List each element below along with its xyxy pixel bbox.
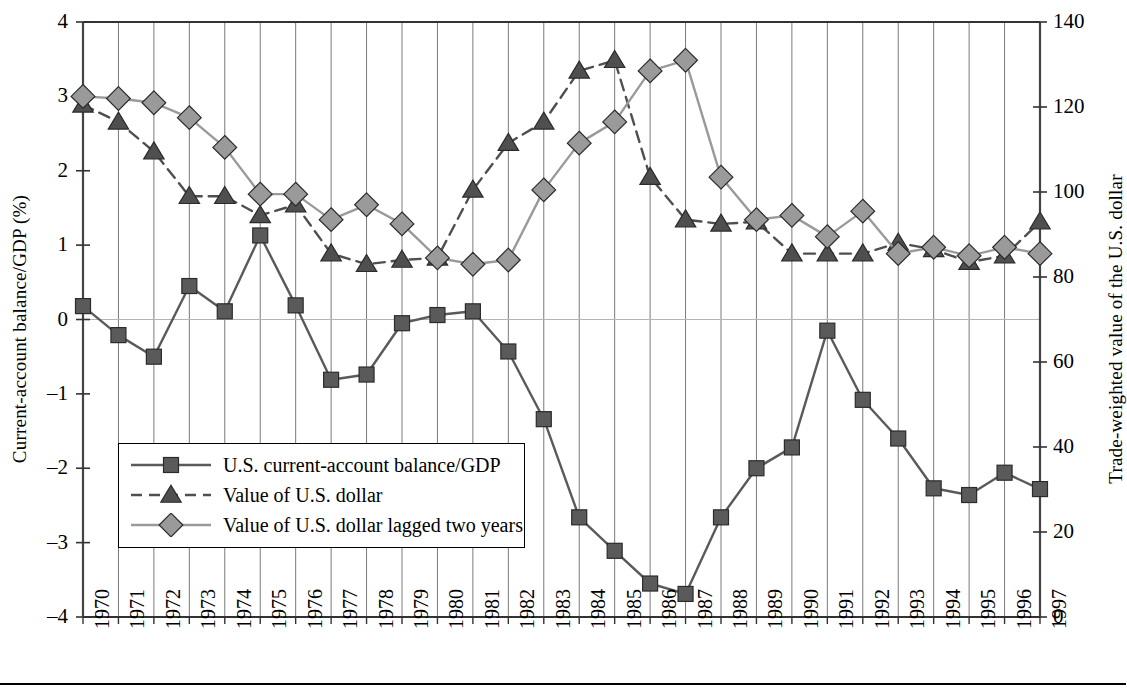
x-tick-label: 1982 [516,589,539,629]
y-tick-label-left: 1 [20,234,68,255]
data-point [853,244,873,261]
legend-marker-square-icon [129,453,213,477]
data-point [142,91,166,115]
x-tick-label: 1988 [729,589,752,629]
data-point [395,316,410,331]
y-tick-label-right: 40 [1053,436,1113,457]
x-tick-label: 1975 [268,589,291,629]
data-point [284,182,308,206]
y-tick-label-right: 20 [1053,521,1113,542]
data-point [780,204,804,228]
x-tick-label: 1983 [552,589,575,629]
data-point [108,112,128,129]
y-tick-label-right: 140 [1053,11,1113,32]
data-point [572,510,587,525]
x-tick-label: 1997 [1048,589,1071,629]
y-tick-label-left: 0 [20,309,68,330]
data-point [532,178,556,202]
data-point [926,481,941,496]
data-point [607,543,622,558]
data-point [820,323,835,338]
data-point [111,328,126,343]
data-point [1028,242,1052,266]
x-tick-label: 1993 [906,589,929,629]
x-tick-label: 1977 [339,589,362,629]
legend-item: Value of U.S. dollar [129,480,512,510]
data-point [253,228,268,243]
data-point [536,412,551,427]
data-point [567,131,591,155]
series-line [83,60,1040,264]
data-point [604,50,624,67]
data-point [288,298,303,313]
data-point [638,59,662,83]
x-tick-label: 1989 [764,589,787,629]
data-point [1033,482,1048,497]
data-point [603,110,627,134]
y-tick-label-right: 120 [1053,96,1113,117]
data-point [319,208,343,232]
x-tick-label: 1974 [233,589,256,629]
x-tick-label: 1972 [162,589,185,629]
data-point [76,299,91,314]
x-tick-label: 1990 [800,589,823,629]
data-point [215,186,235,203]
x-tick-label: 1984 [587,589,610,629]
y-tick-label-left: –4 [20,606,68,627]
data-point [217,304,232,319]
legend-label: Value of U.S. dollar lagged two years [223,514,523,537]
data-point [891,431,906,446]
data-point [997,465,1012,480]
legend-marker-triangle-icon [129,483,213,507]
data-point [107,87,131,111]
x-tick-label: 1978 [375,589,398,629]
legend-item: Value of U.S. dollar lagged two years [129,510,512,540]
data-point [465,304,480,319]
x-tick-label: 1970 [91,589,114,629]
data-point [855,392,870,407]
data-point [496,248,520,272]
legend-label: U.S. current-account balance/GDP [223,454,501,477]
data-point [430,308,445,323]
y-tick-label-left: –2 [20,457,68,478]
data-point [248,182,272,206]
y-tick-label-left: 4 [20,11,68,32]
data-point [71,85,95,109]
data-point [182,279,197,294]
x-tick-label: 1987 [694,589,717,629]
series-1 [73,50,1050,271]
data-point [146,349,161,364]
data-point [498,133,518,150]
data-point [461,252,485,276]
x-tick-label: 1991 [835,589,858,629]
data-point [463,180,483,197]
data-point [749,461,764,476]
data-point [815,225,839,249]
series-2 [71,48,1052,276]
data-point [993,235,1017,259]
data-point [714,510,729,525]
data-point [962,488,977,503]
data-point [784,440,799,455]
y-tick-label-left: 2 [20,160,68,181]
x-tick-label: 1995 [977,589,1000,629]
y-tick-label-left: –1 [20,383,68,404]
x-tick-label: 1976 [304,589,327,629]
x-tick-label: 1994 [942,589,965,629]
data-point [324,372,339,387]
legend-item: U.S. current-account balance/GDP [129,450,512,480]
chart-legend: U.S. current-account balance/GDPValue of… [118,443,525,548]
data-point [355,193,379,217]
x-tick-label: 1979 [410,589,433,629]
data-point [674,48,698,72]
y-tick-label-right: 100 [1053,181,1113,202]
data-point [640,167,660,184]
x-tick-label: 1980 [445,589,468,629]
y-tick-label-right: 80 [1053,266,1113,287]
x-tick-label: 1981 [481,589,504,629]
data-point [782,244,802,261]
x-tick-label: 1985 [623,589,646,629]
y-tick-label-left: –3 [20,532,68,553]
data-point [321,244,341,261]
